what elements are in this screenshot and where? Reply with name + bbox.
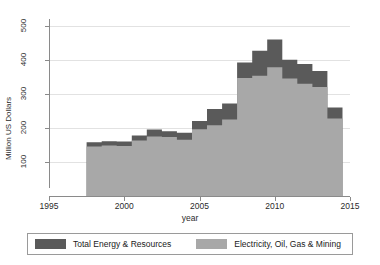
area-electricity-oil-gas-mining (87, 67, 343, 196)
chart-container: Million US Dollars year 100200300400500 … (0, 0, 380, 265)
legend-swatch-electricity-oil-gas-mining (196, 239, 227, 249)
legend-label-electricity-oil-gas-mining: Electricity, Oil, Gas & Mining (234, 239, 341, 249)
legend-item-total-energy-resources[interactable]: Total Energy & Resources (28, 239, 171, 249)
legend-item-electricity-oil-gas-mining[interactable]: Electricity, Oil, Gas & Mining (189, 239, 341, 249)
legend: Total Energy & Resources Electricity, Oi… (27, 233, 353, 255)
plot-area (0, 0, 380, 265)
legend-swatch-total-energy-resources (35, 239, 66, 249)
legend-label-total-energy-resources: Total Energy & Resources (73, 239, 171, 249)
